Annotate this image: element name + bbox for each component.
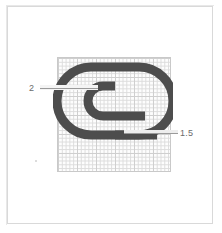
figure-canvas: 2 1.5 <box>0 0 222 233</box>
leader-line-1-5 <box>124 133 178 134</box>
paper-speck <box>35 160 37 162</box>
dimension-label-1-5: 1.5 <box>180 128 193 138</box>
spiral-profile-icon <box>53 62 173 140</box>
leader-line-2 <box>40 88 98 89</box>
dimension-label-2: 2 <box>29 83 34 93</box>
